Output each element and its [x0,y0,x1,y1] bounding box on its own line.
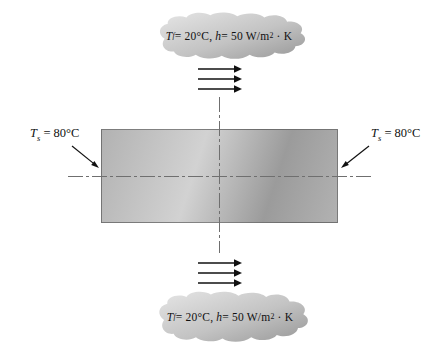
plate [101,129,338,223]
fluid-conditions-label-top: Tf = 20°C, h = 50 W/m2 · K [146,11,312,60]
fluid-temp-symbol: T [166,30,173,42]
flow-arrow-icon [197,84,243,94]
htc-value: = 50 W/m [221,30,269,42]
surface-temp-symbol: T [371,126,378,140]
right-leader-arrow [341,146,369,168]
flow-arrow-icon [197,74,243,84]
heat-transfer-figure: Tf = 20°C, h = 50 W/m2 · K Ts = 80°C Ts … [0,0,440,351]
htc-value: = 50 W/m [222,311,270,323]
flow-arrows-top [197,64,243,94]
surface-temp-value: = 80°C [40,126,79,140]
htc-unit-tail: · K [274,311,293,323]
fluid-conditions-label-bottom: Tf = 20°C, h = 50 W/m2 · K [145,290,315,343]
flow-arrow-icon [197,258,243,268]
htc-unit-tail: · K [273,30,292,42]
fluid-temp-symbol: T [167,311,174,323]
fluid-temp-value: = 20°C, [176,311,216,323]
surface-temp-label-left: Ts = 80°C [30,126,79,141]
flow-arrow-icon [197,268,243,278]
surface-temp-value: = 80°C [381,126,420,140]
fluid-cloud-bottom: Tf = 20°C, h = 50 W/m2 · K [145,290,315,343]
surface-temp-label-right: Ts = 80°C [371,126,420,141]
flow-arrows-bottom [197,258,243,288]
left-leader-arrow [72,146,99,168]
flow-arrow-icon [197,278,243,288]
surface-temp-symbol: T [30,126,37,140]
flow-arrow-icon [197,64,243,74]
fluid-temp-value: = 20°C, [175,30,215,42]
fluid-cloud-top: Tf = 20°C, h = 50 W/m2 · K [146,11,312,60]
